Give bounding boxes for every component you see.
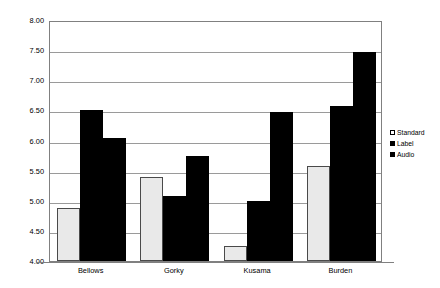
bar-burden-audio [353,52,376,261]
bars-layer [50,22,381,261]
x-axis-tick-label: Burden [299,265,382,277]
legend-item-label[interactable]: Label [390,139,440,148]
bar-bellows-audio [103,138,126,262]
chart-legend: StandardLabelAudio [390,128,440,161]
bar-bellows-label [80,110,103,261]
bar-kusama-standard [224,246,247,261]
plot-area [49,21,382,262]
y-axis-tick-label: 5.00 [16,198,44,206]
legend-label: Audio [397,150,414,159]
legend-item-audio[interactable]: Audio [390,150,440,159]
legend-label: Standard [397,128,425,137]
y-axis-tick-label: 5.50 [16,168,44,176]
x-axis-tick-label: Gorky [132,265,215,277]
bar-chart: Mean: I would like to see other works by… [0,0,440,288]
legend-swatch-audio-icon [390,152,395,157]
x-axis-tick-labels: BellowsGorkyKusamaBurden [49,265,382,279]
legend-swatch-label-icon [390,141,395,146]
y-axis-tick-label: 6.00 [16,138,44,146]
legend-item-standard[interactable]: Standard [390,128,440,137]
bar-kusama-audio [270,112,293,261]
x-axis-line [36,262,394,263]
y-axis-tick-label: 8.00 [16,17,44,25]
bar-kusama-label [247,201,270,261]
y-axis-tick-label: 7.00 [16,77,44,85]
bar-bellows-standard [57,208,80,261]
x-axis-tick-label: Kusama [216,265,299,277]
legend-swatch-standard-icon [390,130,395,135]
legend-label: Label [397,139,414,148]
bar-burden-standard [307,166,330,261]
y-axis-tick-label: 7.50 [16,47,44,55]
x-axis-tick-label: Bellows [49,265,132,277]
bar-gorky-label [163,196,186,261]
y-axis-tick-label: 4.50 [16,228,44,236]
bar-burden-label [330,106,353,261]
y-axis-tick-label: 6.50 [16,107,44,115]
bar-gorky-standard [140,177,163,261]
y-axis-tick-labels: 8.007.507.006.506.005.505.004.504.00 [16,0,44,288]
bar-gorky-audio [186,156,209,261]
